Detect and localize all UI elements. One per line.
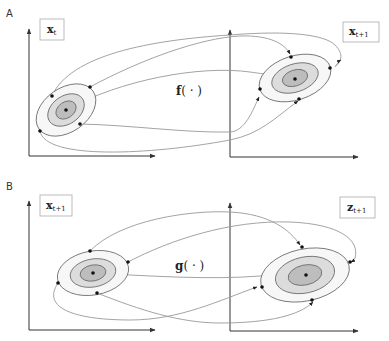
output-variable-box-b: zt+1: [340, 197, 375, 218]
sigma-point-diagram: A xt xt+1: [0, 0, 389, 341]
panel-a: A xt xt+1: [6, 8, 379, 157]
function-arg: ( · ): [183, 259, 204, 273]
function-label-b: g( · ): [175, 259, 204, 273]
panel-b: B xt+1 zt+1: [6, 181, 375, 331]
panel-label-b: B: [6, 181, 13, 192]
input-variable-box-a: xt: [40, 19, 64, 40]
function-label-a: f( · ): [176, 84, 202, 98]
var-sub: t: [54, 29, 57, 37]
var-sub: t+1: [356, 31, 369, 39]
input-variable-box-b: xt+1: [40, 195, 72, 216]
panel-label-a: A: [6, 8, 13, 19]
var-sub: t+1: [353, 207, 366, 215]
var-sub: t+1: [53, 205, 66, 213]
function-arg: ( · ): [181, 84, 202, 98]
output-variable-box-a: xt+1: [343, 22, 379, 42]
